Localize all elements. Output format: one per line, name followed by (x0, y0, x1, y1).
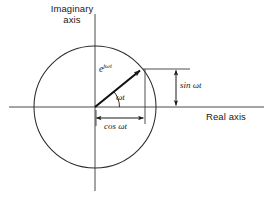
imaginary-axis-label: Imaginary axis (41, 4, 103, 26)
real-axis-label: Real axis (206, 112, 246, 123)
phasor-diagram-canvas (0, 0, 273, 203)
imaginary-axis-label-line2: axis (63, 14, 80, 25)
phasor-diagram-figure: Imaginary axis Real axis ejωt ωt sin ωt … (0, 0, 273, 203)
imaginary-axis-label-line1: Imaginary (51, 3, 94, 14)
cosine-projection-label: cos ωt (104, 121, 127, 131)
angle-omega-t-label: ωt (116, 92, 125, 102)
phasor-exponent-symbol: jωt (103, 62, 112, 69)
sine-projection-label: sin ωt (180, 80, 202, 90)
phasor-expression-label: ejωt (99, 62, 112, 75)
